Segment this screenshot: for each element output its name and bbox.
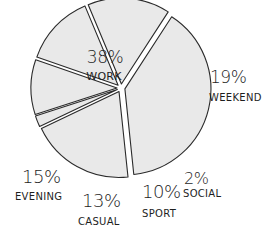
pie-chart: 38%WORK19%WEEKEND2%SOCIAL10%SPORT13%CASU…: [0, 0, 274, 235]
slice-percent-social: 2%: [184, 169, 209, 188]
slice-percent-work: 38%: [87, 47, 123, 67]
slice-label-casual: CASUAL: [78, 216, 120, 227]
pie-slices: [31, 0, 211, 177]
slice-percent-sport: 10%: [142, 181, 181, 202]
slice-percent-casual: 13%: [82, 190, 121, 211]
slice-label-sport: SPORT: [142, 208, 177, 219]
slice-label-weekend: WEEKEND: [209, 92, 262, 103]
slice-percent-weekend: 19%: [210, 67, 246, 87]
slice-label-social: SOCIAL: [183, 188, 221, 199]
slice-percent-evening: 15%: [22, 166, 61, 187]
slice-label-evening: EVENING: [15, 191, 62, 202]
slice-label-work: WORK: [86, 70, 122, 83]
